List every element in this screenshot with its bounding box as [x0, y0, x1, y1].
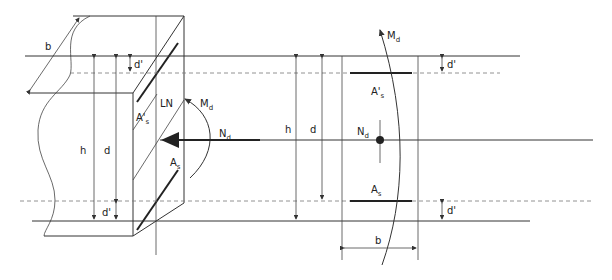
cover-top-label-right: d': [447, 59, 456, 70]
cover-top-label-left: d': [134, 59, 143, 70]
rc-section-diagram: b h d d' d' LN A's As Md Nd h d Nd A's A…: [0, 0, 612, 280]
bottom-steel-label-left: As: [170, 157, 181, 171]
moment-label-right: Md: [387, 30, 400, 44]
depth-label-left: d: [104, 145, 110, 156]
depth-label-right: d: [310, 124, 316, 135]
height-label-right: h: [285, 124, 291, 135]
cover-bottom-label-left: d': [102, 207, 111, 218]
moment-label-left: Md: [200, 98, 213, 112]
moment-arrow-right: [380, 30, 400, 265]
height-label-left: h: [80, 145, 86, 156]
beam-3d-view: [30, 16, 184, 255]
neutral-line-label: LN: [160, 98, 173, 109]
width-label-left: b: [45, 41, 51, 52]
top-steel-label-left: A's: [136, 112, 150, 126]
moment-arrow-left: [185, 99, 210, 178]
top-steel-label-right: A's: [371, 86, 385, 100]
normal-force-point: [376, 136, 384, 144]
bottom-steel-label-right: As: [371, 184, 382, 198]
top-steel-bar-3d: [137, 43, 178, 102]
width-label-right: b: [375, 235, 381, 246]
normal-force-label-right: Nd: [357, 126, 369, 140]
cover-bottom-label-right: d': [447, 205, 456, 216]
